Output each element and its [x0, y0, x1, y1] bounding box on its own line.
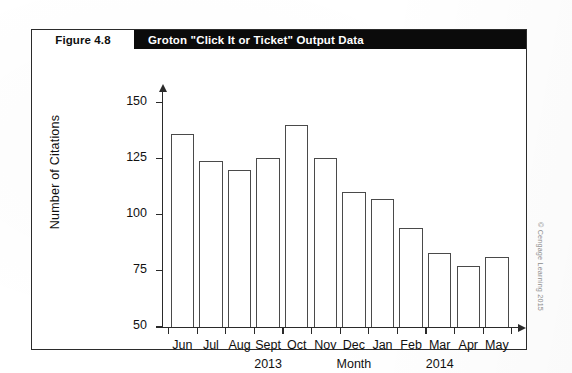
bar: [256, 158, 279, 327]
figure-title-bar: Groton "Click It or Ticket" Output Data: [134, 30, 526, 49]
copyright-credit: © Cengage Learning 2015: [536, 222, 545, 352]
bar: [428, 253, 451, 327]
y-axis-tick: 125: [156, 158, 163, 159]
figure-header: Figure 4.8 Groton "Click It or Ticket" O…: [32, 30, 526, 49]
y-axis-tick-label: 150: [113, 94, 147, 108]
x-axis-arrow-icon: [518, 324, 526, 332]
y-axis-tick-label: 100: [113, 206, 147, 220]
x-axis-tick: [197, 327, 198, 334]
y-axis-tick-label: 75: [113, 262, 147, 276]
y-axis-tick-label: 50: [113, 318, 147, 332]
x-axis-tick: [254, 327, 255, 334]
y-axis-title: Number of Citations: [48, 92, 62, 252]
x-axis-tick: [425, 327, 426, 334]
figure-number-cell: Figure 4.8: [32, 30, 134, 49]
x-axis-tick: [311, 327, 312, 334]
x-axis-tick: [368, 327, 369, 334]
x-axis-title: Month: [322, 357, 386, 371]
x-axis-line: [162, 327, 520, 328]
x-axis-tick: [168, 327, 169, 334]
y-axis-tick-label: 125: [113, 150, 147, 164]
y-axis-tick: 150: [156, 102, 163, 103]
x-axis-tick-label: May: [471, 338, 523, 352]
x-axis-tick: [483, 327, 484, 334]
bar: [171, 134, 194, 327]
bar: [342, 192, 365, 327]
figure-title: Groton "Click It or Ticket" Output Data: [148, 34, 364, 46]
x-axis-tick: [511, 327, 512, 334]
x-axis-tick: [397, 327, 398, 334]
bar: [457, 266, 480, 327]
bar: [485, 257, 508, 327]
bar: [314, 158, 337, 327]
bar: [228, 170, 251, 327]
figure-container: Figure 4.8 Groton "Click It or Ticket" O…: [31, 29, 527, 350]
chart-area: Number of Citations 5075100125150JunJulA…: [32, 49, 526, 349]
bar: [199, 161, 222, 327]
y-axis-arrow-icon: [159, 84, 167, 92]
bar: [285, 125, 308, 327]
y-axis-tick: 100: [156, 214, 163, 215]
y-axis-tick: 50: [156, 326, 163, 327]
bar: [399, 228, 422, 327]
y-axis-tick: 75: [156, 270, 163, 271]
x-axis-tick: [225, 327, 226, 334]
plot-region: 5075100125150JunJulAugSeptOctNovDecJanFe…: [162, 85, 514, 328]
bar: [371, 199, 394, 327]
y-axis-line: [162, 91, 163, 328]
x-axis-group-label: 2014: [408, 357, 472, 371]
x-axis-group-label: 2013: [236, 357, 300, 371]
x-axis-tick: [454, 327, 455, 334]
x-axis-tick: [340, 327, 341, 334]
figure-number: Figure 4.8: [55, 34, 110, 46]
x-axis-tick: [282, 327, 283, 334]
